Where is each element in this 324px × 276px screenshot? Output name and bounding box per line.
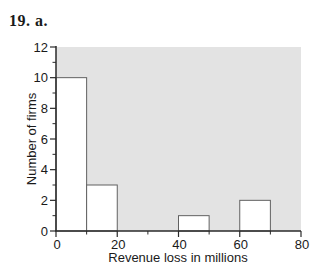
y-tick-label: 10 <box>34 70 48 85</box>
x-axis-title: Revenue loss in millions <box>108 250 248 265</box>
worksheet-figure: 19. a. 024681012020406080 Number of firm… <box>0 0 324 276</box>
histogram-bar <box>179 216 210 231</box>
y-tick-label: 0 <box>41 224 48 239</box>
chart-layers: 024681012020406080 <box>34 40 310 253</box>
y-tick-label: 12 <box>34 40 48 55</box>
y-tick-label: 4 <box>41 162 48 177</box>
y-axis-title: Number of firms <box>24 92 39 185</box>
y-tick-label: 2 <box>41 193 48 208</box>
x-tick-label: 80 <box>295 237 309 252</box>
y-tick-label: 8 <box>41 101 48 116</box>
histogram-bar <box>240 200 271 231</box>
histogram-bar <box>87 185 118 231</box>
x-tick-label: 0 <box>53 237 60 252</box>
histogram-chart: 024681012020406080 Number of firms Reven… <box>0 0 324 276</box>
histogram-bar <box>56 78 87 231</box>
y-tick-label: 6 <box>41 132 48 147</box>
